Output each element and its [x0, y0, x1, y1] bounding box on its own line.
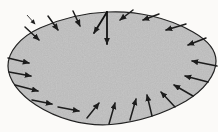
curve-label-pointer-arrow: [27, 15, 35, 24]
region-grain-texture: [8, 12, 216, 125]
angle-theta-label: θ: [0, 0, 3, 2]
figure-canvas: C R v n θ: [0, 0, 218, 132]
vector-field-region-diagram: C R v n θ: [0, 0, 218, 132]
